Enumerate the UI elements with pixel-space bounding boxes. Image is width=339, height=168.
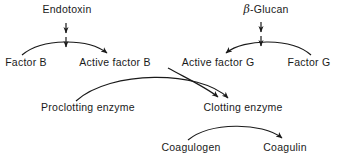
node-coagulin: Coagulin bbox=[263, 141, 306, 153]
edge-factor-g-to-active-factor-g bbox=[226, 42, 311, 55]
edge-active-factor-g-to-clotting-enzyme bbox=[168, 68, 218, 97]
node-factor-b: Factor B bbox=[5, 56, 47, 68]
node-factor-g: Factor G bbox=[288, 56, 331, 68]
node-coagulogen: Coagulogen bbox=[161, 141, 220, 153]
node-proclotting-enzyme: Proclotting enzyme bbox=[41, 101, 135, 113]
node-active-factor-b: Active factor B bbox=[79, 56, 150, 68]
node-clotting-enzyme: Clotting enzyme bbox=[203, 101, 282, 113]
node-beta-glucan: β-Glucan bbox=[243, 3, 288, 16]
node-endotoxin: Endotoxin bbox=[43, 3, 92, 15]
coagulation-cascade-diagram: Endotoxin β-Glucan Factor B Active facto… bbox=[0, 0, 339, 168]
edge-factor-b-to-active-factor-b bbox=[22, 42, 107, 55]
edge-coagulogen-to-coagulin bbox=[188, 126, 282, 140]
node-active-factor-g: Active factor G bbox=[182, 56, 255, 68]
beta-symbol: β bbox=[243, 3, 250, 16]
edge-proclotting-to-clotting-enzyme bbox=[76, 77, 228, 101]
node-beta-glucan-suffix: -Glucan bbox=[250, 3, 289, 15]
